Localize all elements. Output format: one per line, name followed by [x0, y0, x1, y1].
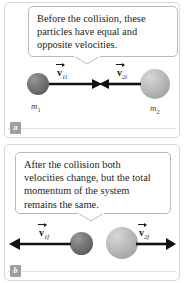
label-v2f: v2f	[139, 227, 149, 240]
v1f-subscript: 1f	[44, 233, 49, 240]
panel-badge-b: b	[10, 265, 21, 277]
label-m1: m1	[31, 101, 41, 113]
particle-m2-before	[140, 69, 170, 99]
baseline-rule-after	[8, 271, 176, 272]
m2-subscript: 2	[157, 108, 160, 115]
m1-subscript: 1	[38, 106, 41, 113]
callout-tail-after-icon	[78, 213, 104, 222]
v2i-subscript: 2i	[122, 73, 127, 80]
v1i-symbol: v	[57, 67, 62, 78]
v2f-subscript: 2f	[144, 233, 149, 240]
v1i-subscript: 1i	[62, 73, 67, 80]
label-v2i: v2i	[117, 67, 127, 80]
label-v1f: v1f	[39, 227, 49, 240]
v1f-symbol: v	[39, 227, 44, 238]
particle-m1-after	[70, 232, 93, 255]
label-v1i: v1i	[57, 67, 67, 80]
panel-badge-a: a	[10, 122, 21, 134]
callout-after-collision: After the collision both velocities chan…	[15, 152, 171, 214]
particle-m1-before	[27, 73, 49, 95]
callout-tail-before-icon	[74, 56, 100, 65]
v2f-symbol: v	[139, 227, 144, 238]
callout-before-collision: Before the collision, these particles ha…	[28, 6, 178, 57]
particle-m2-after	[106, 227, 138, 259]
collision-momentum-figure: Before the collision, these particles ha…	[0, 0, 184, 283]
callout-after-text: After the collision both velocities chan…	[24, 158, 163, 211]
v2i-symbol: v	[117, 67, 122, 78]
callout-before-text: Before the collision, these particles ha…	[37, 12, 170, 52]
baseline-rule-before	[8, 128, 176, 129]
label-m2: m2	[150, 103, 160, 115]
